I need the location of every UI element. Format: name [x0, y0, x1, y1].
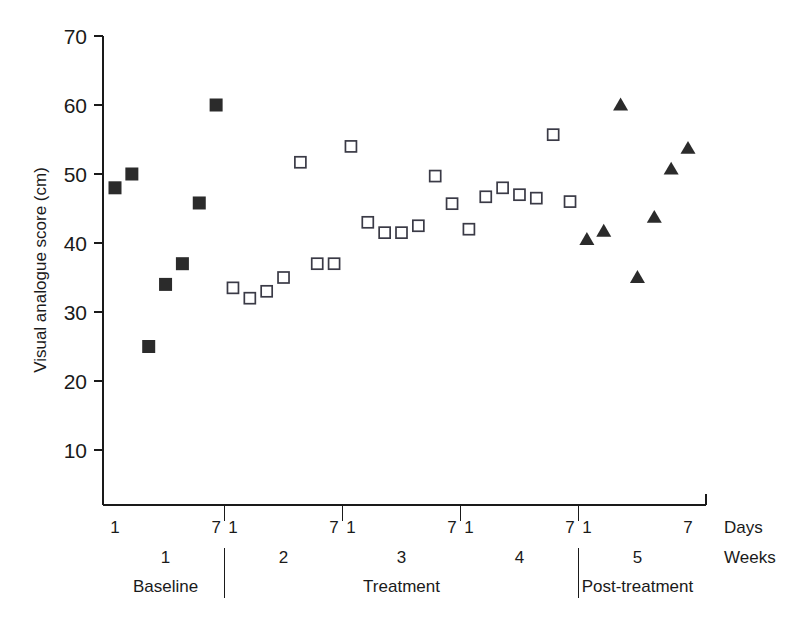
- weeks-axis-label: Weeks: [724, 548, 776, 567]
- data-point-baseline-day3: [142, 340, 155, 353]
- axes: [94, 36, 706, 505]
- scatter-plot-svg: 10203040506070 171717171712345BaselineTr…: [0, 0, 786, 626]
- week-number-label-1: 1: [161, 548, 170, 567]
- day-label-week4-start: 1: [464, 518, 473, 537]
- chart-figure: 10203040506070 171717171712345BaselineTr…: [0, 0, 786, 626]
- y-tick-label-20: 20: [64, 370, 87, 393]
- data-point-treatment-day11: [278, 272, 289, 283]
- data-point-treatment-day24: [497, 182, 508, 193]
- day-label-week3-start: 1: [346, 518, 355, 537]
- day-label-week2-end: 7: [329, 518, 338, 537]
- data-point-post-treatment-day32: [630, 270, 645, 283]
- y-tick-label-40: 40: [64, 232, 87, 255]
- data-point-treatment-day20: [430, 171, 441, 182]
- data-point-post-treatment-day31: [613, 98, 628, 111]
- day-label-week5-start: 1: [582, 518, 591, 537]
- data-point-post-treatment-day34: [664, 162, 679, 175]
- data-point-treatment-day18: [396, 227, 407, 238]
- data-points: [109, 98, 696, 353]
- phase-label-baseline: Baseline: [133, 577, 198, 596]
- data-point-baseline-day4: [159, 278, 172, 291]
- data-point-baseline-day6: [193, 196, 206, 209]
- day-label-week3-end: 7: [447, 518, 456, 537]
- y-axis-tick-labels: 10203040506070: [64, 25, 87, 462]
- data-point-treatment-day16: [362, 217, 373, 228]
- data-point-treatment-day14: [329, 258, 340, 269]
- days-axis-label: Days: [724, 518, 763, 537]
- data-point-treatment-day12: [295, 157, 306, 168]
- data-point-treatment-day19: [413, 220, 424, 231]
- week-number-label-4: 4: [515, 548, 524, 567]
- data-point-treatment-day27: [548, 129, 559, 140]
- phase-label-post-treatment: Post-treatment: [582, 577, 694, 596]
- data-point-treatment-day10: [261, 286, 272, 297]
- data-point-baseline-day1: [109, 181, 122, 194]
- data-point-treatment-day17: [379, 227, 390, 238]
- data-point-post-treatment-day29: [579, 232, 594, 245]
- day-label-week2-start: 1: [228, 518, 237, 537]
- data-point-baseline-day5: [176, 257, 189, 270]
- axis-titles: Visual analogue score (cm): [31, 167, 50, 373]
- data-point-baseline-day7: [210, 99, 223, 112]
- data-point-treatment-day25: [514, 189, 525, 200]
- data-point-post-treatment-day30: [596, 224, 611, 237]
- y-tick-label-10: 10: [64, 439, 87, 462]
- data-point-post-treatment-day35: [681, 141, 696, 154]
- y-tick-label-60: 60: [64, 94, 87, 117]
- data-point-treatment-day13: [312, 258, 323, 269]
- y-axis-ticks: [94, 36, 103, 450]
- data-point-treatment-day28: [565, 196, 576, 207]
- data-point-treatment-day9: [244, 293, 255, 304]
- week-number-label-3: 3: [397, 548, 406, 567]
- data-point-treatment-day8: [227, 282, 238, 293]
- week-number-label-2: 2: [279, 548, 288, 567]
- data-point-post-treatment-day33: [647, 210, 662, 223]
- data-point-treatment-day15: [345, 141, 356, 152]
- y-tick-label-70: 70: [64, 25, 87, 48]
- phase-label-treatment: Treatment: [363, 577, 440, 596]
- day-label-week5-end: 7: [683, 518, 692, 537]
- day-label-week1-end: 7: [211, 518, 220, 537]
- day-label-week4-end: 7: [565, 518, 574, 537]
- y-tick-label-50: 50: [64, 163, 87, 186]
- x-axis-text-labels: 171717171712345BaselineTreatmentPost-tre…: [110, 518, 775, 596]
- week-number-label-5: 5: [633, 548, 642, 567]
- data-point-treatment-day23: [480, 191, 491, 202]
- y-axis-title: Visual analogue score (cm): [31, 167, 50, 373]
- y-tick-label-30: 30: [64, 301, 87, 324]
- data-point-baseline-day2: [125, 168, 138, 181]
- day-label-week1-start: 1: [110, 518, 119, 537]
- data-point-treatment-day22: [463, 224, 474, 235]
- data-point-treatment-day26: [531, 193, 542, 204]
- data-point-treatment-day21: [447, 198, 458, 209]
